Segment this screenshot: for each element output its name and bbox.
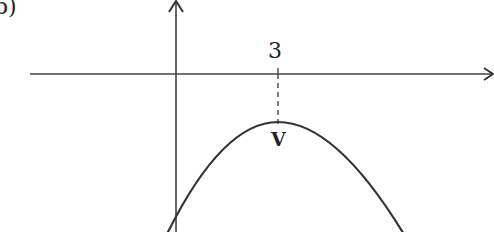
part-label: b) xyxy=(0,0,17,19)
tick-label-3: 3 xyxy=(268,38,282,63)
vertex-label: V xyxy=(271,128,286,150)
graph-canvas xyxy=(0,0,494,232)
